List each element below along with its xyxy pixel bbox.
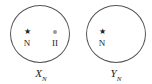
star-icon: ★: [99, 28, 106, 36]
set-x-circle: [10, 5, 70, 63]
element-label-n: N: [99, 39, 106, 48]
star-icon: ★: [24, 28, 31, 36]
set-x-caption: XN: [35, 67, 46, 82]
set-x-subscript: N: [42, 75, 47, 83]
dot-icon: [53, 30, 57, 34]
set-y-caption: YN: [111, 67, 122, 82]
element-label-ii: II: [52, 39, 58, 48]
set-y-subscript: N: [117, 75, 122, 83]
element-label-n: N: [24, 39, 31, 48]
set-y-circle: [86, 5, 146, 63]
set-x-name: X: [35, 67, 42, 79]
